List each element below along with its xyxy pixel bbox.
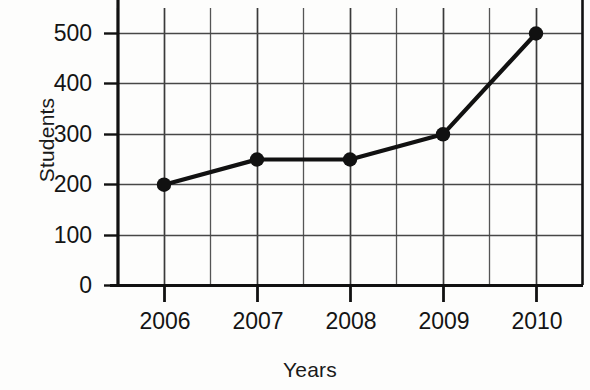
x-tick-label-2007: 2007	[213, 308, 303, 335]
data-point-2008	[343, 152, 357, 166]
data-point-2010	[529, 26, 543, 40]
x-axis-ticks	[165, 285, 537, 302]
data-point-2009	[436, 127, 450, 141]
y-axis-ticks	[104, 34, 118, 286]
x-tick-label-2006: 2006	[120, 308, 210, 335]
x-axis-title: Years	[255, 358, 365, 382]
data-point-2006	[157, 178, 171, 192]
data-point-2007	[250, 152, 264, 166]
line-chart-figure: 500 400 300 200 100 0 2006 2007 2008 200…	[0, 0, 590, 390]
y-tick-label-0: 0	[20, 272, 92, 299]
chart-screenshot: 500 400 300 200 100 0 2006 2007 2008 200…	[0, 0, 590, 390]
y-tick-label-100: 100	[20, 222, 92, 249]
x-tick-label-2009: 2009	[399, 308, 489, 335]
horizontal-gridlines	[117, 34, 582, 236]
x-tick-label-2010: 2010	[492, 308, 582, 335]
minor-vertical-gridlines	[118, 8, 490, 285]
x-tick-label-2008: 2008	[306, 308, 396, 335]
major-vertical-gridlines	[165, 8, 537, 285]
y-tick-label-500: 500	[20, 20, 92, 47]
y-axis-title: Students	[35, 80, 59, 200]
